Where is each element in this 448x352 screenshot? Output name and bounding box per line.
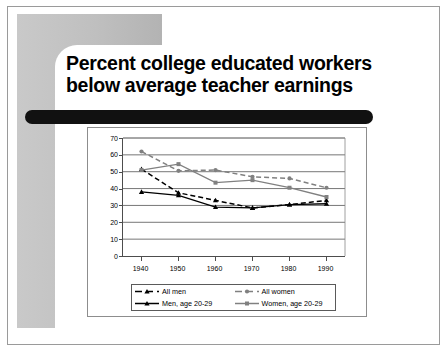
legend-item: All women	[234, 287, 334, 296]
x-tick-mark	[178, 257, 179, 261]
data-point-circle	[244, 290, 248, 294]
legend-label: Women, age 20-29	[262, 300, 323, 307]
data-point-square	[214, 181, 218, 185]
data-point-circle	[213, 168, 217, 172]
legend-key-triangle-icon	[134, 287, 160, 296]
data-point-square	[251, 178, 255, 182]
legend-label: All men	[162, 288, 186, 295]
chart-svg	[123, 138, 345, 256]
y-tick-label: 50	[93, 168, 118, 175]
legend-item: All men	[134, 287, 234, 296]
x-tick-mark	[289, 257, 290, 261]
x-tick-mark	[141, 257, 142, 261]
series-2	[139, 189, 329, 210]
data-point-circle	[324, 186, 328, 190]
x-tick-mark	[215, 257, 216, 261]
x-tick-mark	[326, 257, 327, 261]
legend-item: Women, age 20-29	[234, 299, 334, 308]
legend-key-square-icon	[234, 299, 260, 308]
data-point-circle	[287, 176, 291, 180]
legend-key-circle-icon	[234, 287, 260, 296]
data-point-circle	[176, 169, 180, 173]
x-tick-label: 1940	[126, 265, 156, 272]
chart-legend: All menAll womenMen, age 20-29Women, age…	[131, 284, 336, 311]
slide: Percent college educated workers below a…	[0, 0, 448, 352]
data-point-square	[245, 301, 249, 305]
legend-item: Men, age 20-29	[134, 299, 234, 308]
y-tick-label: 0	[93, 253, 118, 260]
y-tick-label: 20	[93, 219, 118, 226]
series-1	[139, 149, 328, 189]
data-point-square	[140, 168, 144, 172]
y-tick-label: 10	[93, 236, 118, 243]
legend-label: All women	[262, 288, 295, 295]
data-point-square	[177, 162, 181, 166]
legend-label: Men, age 20-29	[162, 300, 212, 307]
data-point-square	[288, 186, 292, 190]
y-tick-label: 70	[93, 135, 118, 142]
data-point-square	[325, 195, 329, 199]
plot-area	[122, 138, 345, 257]
x-tick-label: 1990	[311, 265, 341, 272]
title-accent-bar	[25, 110, 373, 124]
x-tick-label: 1950	[163, 265, 193, 272]
x-tick-mark	[252, 257, 253, 261]
y-tick-label: 30	[93, 202, 118, 209]
x-tick-label: 1960	[200, 265, 230, 272]
y-tick-label: 40	[93, 185, 118, 192]
chart-object[interactable]: 010203040506070 194019501960197019801990…	[87, 127, 367, 317]
data-point-circle	[139, 149, 143, 153]
x-tick-label: 1970	[237, 265, 267, 272]
chart-plot-wrapper: 010203040506070 194019501960197019801990…	[93, 132, 361, 314]
legend-key-triangle-icon	[134, 299, 160, 308]
y-tick-label: 60	[93, 151, 118, 158]
slide-title: Percent college educated workers below a…	[66, 52, 426, 96]
x-tick-label: 1980	[274, 265, 304, 272]
